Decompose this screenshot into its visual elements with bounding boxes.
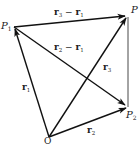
label-r1: r1 [22, 82, 30, 93]
label-r2-minus-r1: r2 − r1 [54, 42, 84, 53]
label-p1: P1 [0, 20, 12, 32]
vector-diagram: P1 P P2 O r3 − r1 r2 − r1 r3 r1 r2 [0, 0, 140, 146]
vector-r3 [49, 18, 126, 137]
label-r3: r3 [103, 62, 112, 73]
label-r3-minus-r1: r3 − r1 [54, 7, 84, 18]
label-p2: P2 [125, 109, 137, 121]
vector-r1 [15, 29, 49, 137]
label-o: O [44, 136, 51, 146]
label-p3: P [130, 4, 138, 15]
label-r2: r2 [87, 125, 95, 136]
vector-r3-minus-r1 [14, 16, 125, 27]
